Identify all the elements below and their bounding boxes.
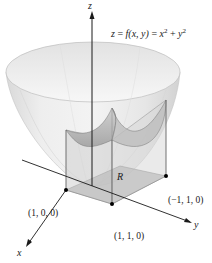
point-1-0-0 (64, 188, 68, 192)
eq-equals-2: = (149, 28, 160, 39)
x-axis-label: x (17, 248, 21, 258)
eq-plus: + (167, 28, 178, 39)
z-axis-label: z (88, 1, 92, 11)
eq-equals: = (115, 28, 126, 39)
point-label-1-1-0: (1, 1, 0) (114, 232, 144, 242)
eq-y-exp: 2 (183, 27, 187, 35)
point-label-neg1-1-0: (−1, 1, 0) (168, 196, 203, 206)
paraboloid-diagram: z = f(x, y) = x2 + y2 z y x R (1, 0, 0) … (0, 0, 212, 263)
point-neg1-1-0 (164, 174, 168, 178)
z-axis-arrow-icon (90, 11, 95, 19)
point-label-1-0-0: (1, 0, 0) (28, 209, 58, 219)
eq-args: (x, y) (128, 28, 149, 39)
y-axis-label: y (194, 220, 198, 230)
equation-label: z = f(x, y) = x2 + y2 (111, 28, 186, 39)
y-axis-arrow-icon (184, 218, 192, 223)
point-1-1-0 (110, 202, 114, 206)
diagram-canvas (0, 0, 212, 263)
region-label: R (117, 172, 123, 182)
paraboloid-rim (6, 42, 180, 102)
